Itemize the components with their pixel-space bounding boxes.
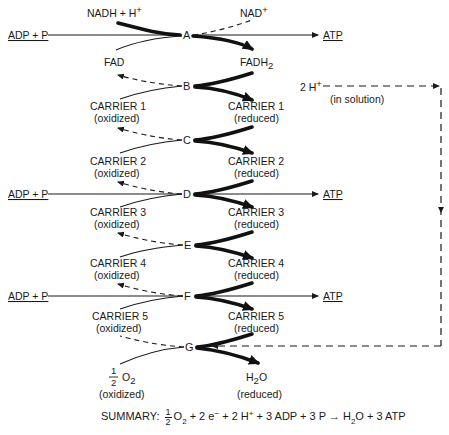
carrier3-oxidized-label: CARRIER 3 (90, 206, 146, 218)
node-D: D (183, 188, 191, 200)
h2o-label: H2O (246, 371, 267, 386)
c-to-carrier2-red-arrow (195, 141, 252, 153)
carrier4-reduced-state: (reduced) (234, 269, 279, 281)
node-C: C (183, 134, 191, 146)
b-to-fad-dash (118, 75, 182, 86)
summary-equation: SUMMARY: 1 2 O2 + 2 e− + 2 H+ + 3 ADP + … (101, 408, 406, 427)
fad-label: FAD (104, 56, 125, 68)
proton-arrowhead (433, 83, 440, 89)
carrier2-reduced-label: CARRIER 2 (228, 155, 284, 167)
svg-text:O2: O2 (122, 371, 135, 386)
summary-products: H (343, 410, 351, 422)
f-to-carrier4-dash (118, 284, 183, 296)
carrier4-oxidized-state: (oxidized) (94, 269, 140, 281)
carrier5-oxidized-state: (oxidized) (96, 322, 142, 334)
reaction-G: G 1 2 O2 (oxidized) H2O (reduced) (99, 334, 282, 400)
nadh-label: NADH + H+ (87, 4, 142, 19)
d-to-carrier2-dash (118, 182, 182, 194)
nadh-to-a-arrow (118, 23, 180, 35)
carrier4-red-to-f-arrow (196, 283, 252, 296)
atp-label-2: ATP (323, 188, 343, 200)
summary-protons-sup: + (249, 409, 254, 418)
reaction-E: E CARRIER 4 (oxidized) CARRIER 4 (reduce… (90, 232, 284, 281)
node-G: G (185, 341, 194, 353)
summary-prefix: SUMMARY: (101, 410, 159, 422)
carrier1-red-to-c-arrow (195, 127, 252, 140)
adp-p-label-1: ADP + P (8, 29, 48, 41)
carrier2-oxidized-state: (oxidized) (94, 167, 140, 179)
carrier1-reduced-state: (reduced) (234, 112, 279, 124)
summary-protons: + 2 H (222, 410, 249, 422)
c-to-carrier1-dash (118, 128, 182, 140)
h2o-reduced-state: (reduced) (237, 388, 282, 400)
carrier5-ox-to-f-line (120, 296, 183, 309)
carrier1-reduced-label: CARRIER 1 (228, 100, 284, 112)
carrier2-oxidized-label: CARRIER 2 (90, 155, 146, 167)
a-to-nad-dash (193, 20, 252, 35)
summary-half-fraction: 1 2 (165, 408, 172, 427)
summary-o2-sub: 2 (182, 417, 186, 426)
reaction-B: B CARRIER 1 (oxidized) CARRIER 1 (reduce… (90, 73, 384, 124)
summary-products-rest: O + 3 ATP (355, 410, 405, 422)
carrier3-oxidized-state: (oxidized) (94, 218, 140, 230)
carrier4-ox-to-e-line (120, 245, 183, 257)
o2-to-g-line (120, 347, 184, 364)
o2-oxidized-state: (oxidized) (99, 388, 145, 400)
adp-p-label-3: ADP + P (8, 290, 48, 302)
half-o2-label: 1 2 O2 (109, 365, 135, 388)
svg-text:2: 2 (111, 377, 116, 388)
nad-label: NAD+ (240, 4, 268, 19)
carrier3-reduced-state: (reduced) (234, 218, 279, 230)
carrier5-reduced-label: CARRIER 5 (228, 310, 284, 322)
carrier3-reduced-label: CARRIER 3 (228, 206, 284, 218)
summary-electrons: + 2 e (190, 410, 215, 422)
f-to-carrier5-red-arrow (196, 297, 252, 309)
summary-electrons-sup: − (214, 409, 219, 418)
carrier2-reduced-state: (reduced) (234, 167, 279, 179)
electron-transport-diagram: A NADH + H+ NAD+ ADP + P ATP FAD FADH2 B… (0, 0, 449, 435)
e-to-carrier3-dash (118, 233, 183, 245)
summary-arrow: → (329, 410, 340, 422)
carrier1-ox-to-b-line (120, 86, 182, 99)
carrier1-oxidized-state: (oxidized) (94, 112, 140, 124)
carrier2-ox-to-c-line (120, 140, 182, 153)
a-to-fad-line (116, 36, 182, 50)
node-A: A (183, 29, 191, 41)
reaction-A: A NADH + H+ NAD+ ADP + P ATP FAD FADH2 (8, 4, 343, 71)
adp-p-label-2: ADP + P (8, 188, 48, 200)
carrier4-reduced-label: CARRIER 4 (228, 257, 284, 269)
node-B: B (183, 80, 190, 92)
carrier4-oxidized-label: CARRIER 4 (90, 257, 146, 269)
svg-text:1: 1 (111, 365, 116, 376)
node-F: F (184, 290, 191, 302)
carrier1-oxidized-label: CARRIER 1 (90, 100, 146, 112)
a-to-fadh2-arrow (193, 36, 252, 49)
carrier2-red-to-d-arrow (195, 181, 252, 194)
node-E: E (184, 239, 191, 251)
protons-note: (in solution) (330, 93, 384, 105)
reaction-F: F ADP + P ATP CARRIER 5 (oxidized) CARRI… (8, 283, 343, 334)
reaction-C: C CARRIER 2 (oxidized) CARRIER 2 (reduce… (90, 127, 284, 179)
summary-reactants: + 3 ADP + 3 P (257, 410, 326, 422)
g-to-h2o-arrow (197, 348, 258, 363)
carrier3-red-to-e-arrow (196, 232, 252, 245)
proton-mid-arrowhead (438, 207, 444, 213)
carrier5-reduced-state: (reduced) (234, 322, 279, 334)
fadh2-label: FADH2 (240, 56, 273, 71)
carrier5-red-to-g-arrow (197, 334, 252, 347)
g-to-carrier5-dash (120, 336, 184, 347)
b-to-carrier1-red-arrow (195, 87, 252, 100)
summary-o2: O (174, 410, 183, 422)
fraction-denominator: 2 (165, 418, 172, 427)
reaction-D: D ADP + P ATP CARRIER 3 (oxidized) CARRI… (8, 181, 343, 230)
carrier5-oxidized-label: CARRIER 5 (92, 310, 148, 322)
atp-label-3: ATP (323, 290, 343, 302)
protons-label: 2 H+ (300, 78, 322, 93)
fadh2-to-b-arrow (195, 73, 252, 86)
atp-label-1: ATP (323, 29, 343, 41)
